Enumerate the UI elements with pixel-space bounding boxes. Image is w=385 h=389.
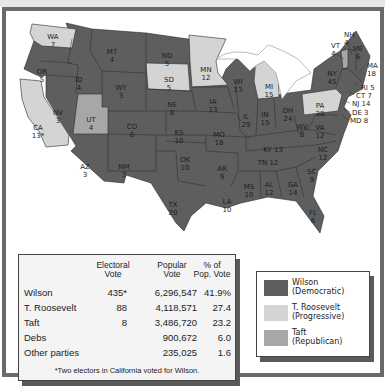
cell-ev: 88	[89, 302, 127, 313]
state-label-ga: GA 14	[288, 181, 298, 197]
header-pct-pop-vote: % of Pop. Vote	[189, 261, 235, 279]
cell-name: T. Roosevelt	[24, 302, 76, 313]
callout-label-ma: MA 18	[367, 62, 378, 78]
results-table: Electoral Vote Popular Vote % of Pop. Vo…	[18, 254, 236, 381]
cell-pct: 27.4	[195, 302, 231, 313]
cell-pv: 6,296,547	[139, 287, 197, 298]
state-label-tx: TX 20	[168, 201, 177, 217]
cell-pv: 4,118,571	[139, 302, 197, 313]
state-label-ms: MS 10	[244, 183, 254, 199]
state-label-co: CO 6	[127, 123, 137, 139]
state-label-pa: PA 38	[316, 102, 325, 118]
cell-name: Other parties	[24, 347, 79, 358]
table-row: Debs900,6726.0	[19, 332, 235, 344]
callout-label-ct: CT 7	[356, 92, 372, 100]
state-label-ky: KY 13	[263, 146, 283, 154]
state-label-wy: WY 3	[115, 84, 126, 100]
state-label-nv: NV 3	[53, 109, 63, 125]
state-label-ca: CA 13*	[32, 124, 44, 140]
state-label-ny: NY 45	[327, 70, 337, 86]
state-label-me: ME 6	[353, 45, 363, 61]
state-label-va: VA 12	[315, 124, 324, 140]
callout-label-vt: VT 4	[331, 42, 340, 58]
cell-pct: 41.9%	[195, 287, 231, 298]
state-label-mo: MO 18	[213, 131, 225, 147]
state-label-la: LA 10	[223, 198, 232, 214]
state-label-nm: NM 3	[118, 163, 129, 179]
state-label-ia: IA 13	[209, 98, 218, 114]
legend-label-taft: Taft (Republican)	[292, 328, 342, 346]
cell-name: Taft	[24, 317, 39, 328]
state-label-in: IN 15	[261, 111, 270, 127]
state-label-az: AZ 3	[80, 163, 90, 179]
callout-label-ri: RI 5	[361, 84, 375, 92]
state-label-nd: ND 5	[162, 52, 173, 68]
cell-pv: 3,486,720	[139, 317, 197, 328]
state-label-ne: NE 8	[167, 101, 177, 117]
cell-pv: 900,672	[139, 332, 197, 343]
state-label-ut: UT 4	[86, 116, 95, 132]
legend-swatch-wilson	[264, 280, 288, 296]
state-label-or: OR 5	[37, 68, 47, 84]
callout-label-nh: NH 4	[344, 31, 355, 47]
cell-ev: 8	[89, 317, 127, 328]
state-label-mt: MT 4	[107, 48, 117, 64]
state-label-mn: MN 12	[200, 66, 211, 82]
state-label-ok: OK 10	[180, 156, 190, 172]
table-row: T. Roosevelt884,118,57127.4	[19, 302, 235, 314]
cell-name: Wilson	[24, 287, 53, 298]
state-label-ks: KS 10	[174, 129, 183, 145]
top-strip	[0, 0, 385, 7]
state-label-ar: AR 9	[217, 165, 227, 181]
legend-item-roosevelt: T. Roosevelt (Progressive)	[264, 303, 368, 323]
cell-pct: 23.2	[195, 317, 231, 328]
cell-pct: 1.6	[195, 347, 231, 358]
cell-name: Debs	[24, 332, 46, 343]
state-label-il: IL 29	[242, 113, 251, 129]
cell-ev: 435*	[89, 287, 127, 298]
table-row: Wilson435*6,296,54741.9%	[19, 287, 235, 299]
state-label-sd: SD 5	[164, 76, 174, 92]
legend-label-wilson: Wilson (Democratic)	[292, 278, 344, 296]
state-label-al: AL 12	[265, 181, 274, 197]
legend-swatch-roosevelt	[264, 305, 288, 321]
table-row: Taft83,486,72023.2	[19, 317, 235, 329]
state-label-fl: FL 6	[309, 209, 317, 225]
table-row: Other parties235,0251.6	[19, 347, 235, 359]
state-label-nc: NC 12	[318, 146, 328, 162]
us-election-map-1912: WA 7OR 5CA 13*ID 4NV 3MT 4WY 3UT 4CO 6AZ…	[6, 11, 376, 241]
state-label-oh: OH 24	[283, 107, 294, 123]
callout-label-md: MD 8	[350, 117, 368, 125]
map-legend: Wilson (Democratic) T. Roosevelt (Progre…	[256, 271, 370, 357]
state-label-sc: SC 9	[307, 168, 316, 184]
legend-item-wilson: Wilson (Democratic)	[264, 278, 368, 298]
callout-label-nj: NJ 14	[352, 100, 370, 108]
state-label-tn: TN 12	[258, 159, 279, 167]
state-label-id: ID 4	[75, 76, 82, 92]
callout-label-de: DE 3	[352, 109, 369, 117]
state-label-wv: WV 8	[296, 123, 308, 139]
legend-label-roosevelt: T. Roosevelt (Progressive)	[292, 303, 344, 321]
legend-swatch-taft	[264, 330, 288, 346]
cell-pv: 235,025	[139, 347, 197, 358]
legend-item-taft: Taft (Republican)	[264, 328, 368, 348]
cell-pct: 6.0	[195, 332, 231, 343]
table-footnote: *Two electors in California voted for Wi…	[19, 366, 235, 375]
state-label-mi: MI 15	[265, 83, 274, 99]
header-electoral-vote: Electoral Vote	[92, 261, 134, 279]
state-label-wi: WI 13	[234, 78, 243, 94]
state-label-wa: WA 7	[47, 33, 58, 49]
